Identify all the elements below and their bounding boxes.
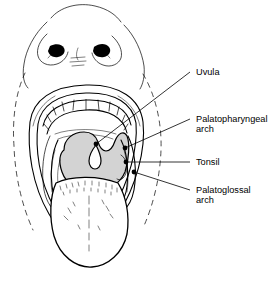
anatomy-illustration: Uvula Palatopharyngeal arch Tonsil Palat…: [0, 0, 276, 288]
uvula-marker-dot: [94, 142, 99, 147]
label-tonsil: Tonsil: [196, 157, 220, 167]
palatopharyngeal-leader-line: [125, 119, 190, 148]
label-palatoglossal-arch-line2: arch: [196, 195, 214, 205]
columella: [77, 48, 79, 60]
tongue: [51, 177, 128, 267]
forehead-arc: [51, 5, 121, 22]
teeth-band-inner: [47, 110, 127, 134]
palatopharyngeal-marker-dot: [123, 146, 128, 151]
right-jaw-dashed: [143, 74, 161, 228]
oral-cavity-figure: Uvula Palatopharyngeal arch Tonsil Palat…: [0, 0, 276, 288]
nose-group: [37, 34, 121, 66]
label-palatopharyngeal-arch-line1: Palatopharyngeal: [196, 114, 268, 124]
label-palatopharyngeal-arch-line2: arch: [196, 124, 214, 134]
tongue-group: [51, 177, 128, 267]
philtrum-hatching: [70, 57, 86, 66]
palatoglossal-leader-line: [134, 172, 190, 190]
label-palatoglossal-arch-line1: Palatoglossal: [196, 185, 251, 195]
labels-group: Uvula Palatopharyngeal arch Tonsil Palat…: [196, 67, 268, 205]
palatoglossal-marker-dot: [132, 170, 137, 175]
left-cheek-contour: [23, 22, 47, 88]
tooth-divisions: [44, 100, 128, 131]
right-cheek-contour: [124, 25, 144, 89]
tonsil-marker-dot: [124, 160, 129, 165]
label-uvula: Uvula: [196, 67, 220, 77]
